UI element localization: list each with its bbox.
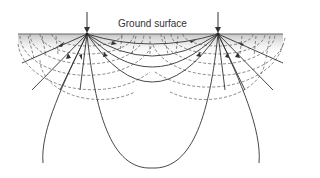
arrow-down-icon (84, 27, 90, 33)
electrode-right (215, 12, 221, 36)
electrode-left (84, 12, 90, 36)
ground-surface-label: Ground surface (118, 18, 187, 29)
arrow-down-icon (215, 27, 221, 33)
